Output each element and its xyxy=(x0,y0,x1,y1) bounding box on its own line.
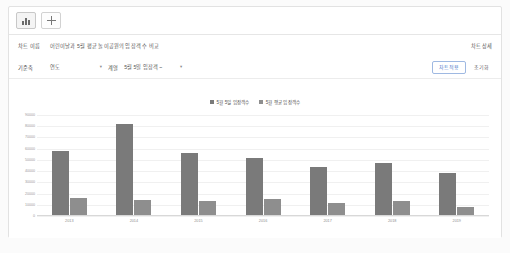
x-tick-label: 2015 xyxy=(166,219,231,223)
chevron-down-icon: ▾ xyxy=(100,64,102,69)
bar-1[interactable] xyxy=(393,201,410,216)
bar-1[interactable] xyxy=(199,201,216,216)
chart-card: 차트 이름 어린이날과 5월 평균 놀이공원의 입장객 수 비교 차트 상세 기… xyxy=(8,6,502,238)
bar-group: 2015 xyxy=(166,115,231,216)
reset-button[interactable]: 초기화 xyxy=(471,61,492,74)
y-tick-label: 40000 xyxy=(25,169,35,173)
x-tick-label: 2017 xyxy=(295,219,360,223)
axis-row: 기준축 연도 ▾ 계열 5월 5일 입장객 ~ ▾ 차트적용 초기화 xyxy=(9,56,501,79)
bar-0[interactable] xyxy=(52,151,69,216)
y-tick-label: 60000 xyxy=(25,147,35,151)
bar-group: 2017 xyxy=(295,115,360,216)
legend-swatch-1 xyxy=(259,100,263,104)
tab-strip xyxy=(9,7,501,35)
y-tick-label: 50000 xyxy=(25,158,35,162)
bar-1[interactable] xyxy=(264,199,281,216)
bar-1[interactable] xyxy=(328,203,345,216)
chart-detail-link[interactable]: 차트 상세 xyxy=(471,42,492,49)
legend-item-0[interactable]: 5월 5일 입장객수 xyxy=(210,99,249,105)
chart-name-label: 차트 이름 xyxy=(18,42,44,49)
axis-baseline xyxy=(37,215,489,216)
chevron-down-icon-2: ▾ xyxy=(180,64,182,69)
x-tick-label: 2013 xyxy=(37,219,102,223)
app-page: 차트 이름 어린이날과 5월 평균 놀이공원의 입장객 수 비교 차트 상세 기… xyxy=(0,0,510,253)
bar-0[interactable] xyxy=(181,153,198,216)
add-tab-button[interactable] xyxy=(41,12,61,29)
plot-area: 9000080000700006000050000400003000020000… xyxy=(37,115,489,216)
y-tick-label: 20000 xyxy=(25,192,35,196)
bar-0[interactable] xyxy=(246,158,263,216)
legend-swatch-0 xyxy=(210,100,214,104)
tab-chart[interactable] xyxy=(16,12,36,29)
bar-0[interactable] xyxy=(116,124,133,216)
y-tick-label: 30000 xyxy=(25,180,35,184)
legend-item-1[interactable]: 5월 평균 입장객수 xyxy=(259,99,300,105)
apply-chart-button[interactable]: 차트적용 xyxy=(432,61,466,74)
legend-label-1: 5월 평균 입장객수 xyxy=(266,99,300,105)
bar-group: 2018 xyxy=(360,115,425,216)
series-label: 계열 xyxy=(108,64,118,71)
series-select-value: 5월 5일 입장객 ~ xyxy=(124,63,162,70)
x-tick-label: 2018 xyxy=(360,219,425,223)
bar-0[interactable] xyxy=(375,163,392,216)
bar-group: 2014 xyxy=(102,115,167,216)
x-tick-label: 2014 xyxy=(102,219,167,223)
y-tick: 0 xyxy=(37,216,489,217)
chart-name-row: 차트 이름 어린이날과 5월 평균 놀이공원의 입장객 수 비교 차트 상세 xyxy=(9,35,501,56)
y-tick-label: 90000 xyxy=(25,113,35,117)
y-tick-label: 10000 xyxy=(25,203,35,207)
bar-0[interactable] xyxy=(310,167,327,216)
bar-group: 2013 xyxy=(37,115,102,216)
y-tick-label: 0 xyxy=(33,214,35,218)
legend-label-0: 5월 5일 입장객수 xyxy=(217,99,250,105)
x-tick-label: 2019 xyxy=(424,219,489,223)
y-tick-label: 70000 xyxy=(25,135,35,139)
x-tick-label: 2016 xyxy=(231,219,296,223)
chart-name-value[interactable]: 어린이날과 5월 평균 놀이공원의 입장객 수 비교 xyxy=(50,42,159,49)
chart-legend: 5월 5일 입장객수5월 평균 입장객수 xyxy=(9,99,501,105)
plus-icon xyxy=(47,16,56,25)
bar-group: 2016 xyxy=(231,115,296,216)
bar-1[interactable] xyxy=(70,198,87,216)
bar-group: 2019 xyxy=(424,115,489,216)
bar-1[interactable] xyxy=(134,200,151,216)
bar-0[interactable] xyxy=(439,173,456,216)
axis-select-value: 연도 xyxy=(50,63,60,70)
axis-select[interactable]: 연도 ▾ xyxy=(50,63,102,71)
bar-groups: 2013201420152016201720182019 xyxy=(37,115,489,216)
action-buttons: 차트적용 초기화 xyxy=(432,61,492,74)
y-tick-label: 80000 xyxy=(25,124,35,128)
bar-chart-icon xyxy=(22,17,30,25)
chart-container: 5월 5일 입장객수5월 평균 입장객수 9000080000700006000… xyxy=(9,79,501,238)
series-select[interactable]: 5월 5일 입장객 ~ ▾ xyxy=(124,63,182,71)
axis-label: 기준축 xyxy=(18,64,44,71)
